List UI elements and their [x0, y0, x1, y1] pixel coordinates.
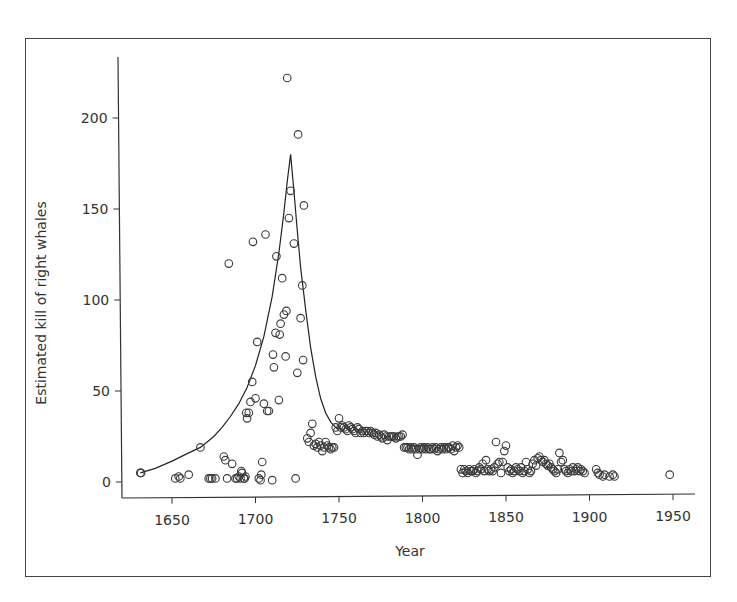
data-point — [666, 471, 674, 479]
data-point — [223, 475, 231, 483]
data-point — [287, 187, 295, 195]
data-point — [225, 260, 233, 268]
data-point — [297, 314, 305, 322]
data-point — [273, 252, 281, 260]
data-point — [300, 202, 308, 210]
y-axis-label: Estimated kill of right whales — [33, 201, 49, 404]
data-point — [253, 338, 261, 346]
data-point — [294, 131, 302, 139]
y-tick-label: 0 — [102, 474, 111, 490]
data-point — [497, 469, 505, 477]
y-tick-label: 150 — [82, 201, 109, 217]
x-tick-label: 1800 — [405, 510, 441, 526]
data-point — [278, 274, 286, 282]
data-point — [185, 471, 193, 479]
data-point — [285, 214, 293, 222]
axis-labels: Year Estimated kill of right whales — [33, 201, 425, 559]
data-point — [611, 473, 619, 481]
data-point — [260, 400, 268, 408]
x-tick-label: 1850 — [488, 509, 524, 525]
x-tick-label: 1700 — [238, 511, 274, 527]
data-point — [277, 320, 285, 328]
y-tick-label: 100 — [82, 292, 109, 308]
axes: 0501001502001650170017501800185019001950 — [81, 57, 695, 528]
data-point — [268, 476, 276, 484]
data-points — [137, 74, 674, 484]
data-point — [294, 369, 302, 377]
data-point — [282, 353, 290, 361]
data-point — [557, 458, 565, 466]
data-point — [275, 396, 283, 404]
y-axis-line — [118, 57, 122, 498]
data-point — [283, 74, 291, 82]
data-point — [556, 449, 564, 457]
data-point — [262, 231, 270, 239]
x-tick-label: 1950 — [655, 508, 691, 524]
x-axis-line — [122, 494, 695, 498]
y-tick-label: 200 — [81, 110, 108, 126]
data-point — [335, 415, 343, 423]
data-point — [263, 407, 271, 415]
data-point — [258, 458, 266, 466]
data-point — [177, 475, 185, 483]
data-point — [249, 238, 257, 246]
data-point — [290, 240, 298, 248]
data-point — [309, 420, 317, 428]
data-point — [228, 460, 236, 468]
data-point — [559, 456, 567, 464]
y-tick-label: 50 — [92, 383, 110, 399]
data-point — [292, 475, 300, 483]
data-point — [492, 438, 500, 446]
x-tick-label: 1650 — [154, 512, 190, 528]
data-point — [299, 356, 307, 364]
scatter-chart: 0501001502001650170017501800185019001950… — [0, 0, 737, 602]
x-tick-label: 1900 — [572, 509, 608, 525]
data-point — [265, 407, 273, 415]
x-tick-label: 1750 — [321, 510, 357, 526]
x-axis-label: Year — [394, 543, 425, 559]
data-point — [270, 364, 278, 372]
data-point — [269, 351, 277, 359]
data-point — [601, 471, 609, 479]
